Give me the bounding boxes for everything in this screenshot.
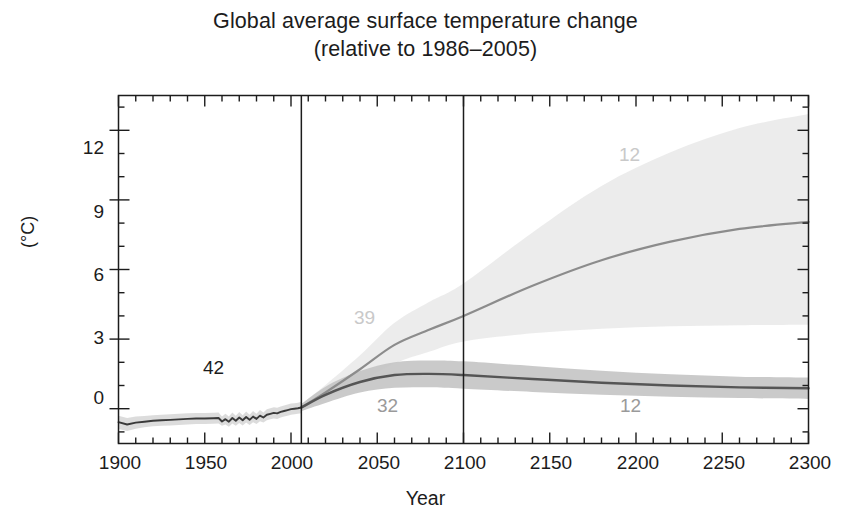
annotation-rcp85-count-2100: 39 — [354, 307, 375, 329]
annotation-historical-count: 42 — [203, 357, 224, 379]
x-tick-label-2250: 2250 — [679, 452, 769, 474]
x-tick-label-2200: 2200 — [593, 452, 683, 474]
y-tick-label-6: 6 — [60, 264, 104, 286]
chart-subtitle: (relative to 1986–2005) — [0, 36, 851, 64]
chart-title: Global average surface temperature chang… — [0, 8, 851, 36]
x-tick-label-1900: 1900 — [75, 452, 165, 474]
band-historical — [119, 402, 302, 431]
chart-figure: Global average surface temperature chang… — [0, 0, 851, 531]
x-tick-label-2150: 2150 — [506, 452, 596, 474]
y-tick-label-9: 9 — [60, 201, 104, 223]
x-tick-label-1950: 1950 — [161, 452, 251, 474]
x-tick-label-2100: 2100 — [420, 452, 510, 474]
x-axis-label: Year — [0, 487, 851, 510]
y-tick-label-3: 3 — [60, 327, 104, 349]
annotation-rcp26-count-2100: 32 — [377, 395, 398, 417]
x-tick-label-2300: 2300 — [765, 452, 851, 474]
x-tick-label-2000: 2000 — [247, 452, 337, 474]
y-tick-label-0: 0 — [60, 387, 104, 409]
y-axis-label: (°C) — [18, 216, 39, 248]
annotation-rcp85-count-2300: 12 — [619, 144, 640, 166]
chart-title-block: Global average surface temperature chang… — [0, 8, 851, 63]
x-tick-label-2050: 2050 — [334, 452, 424, 474]
y-tick-label-12: 12 — [60, 137, 104, 159]
annotation-rcp26-count-2300: 12 — [620, 395, 641, 417]
